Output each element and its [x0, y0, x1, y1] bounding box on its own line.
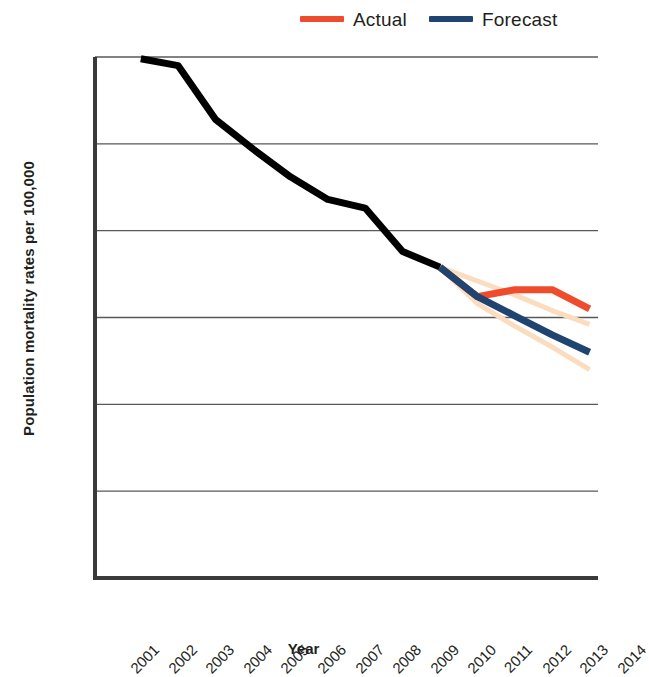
legend-label-actual: Actual: [353, 10, 407, 29]
legend-swatch-actual: [300, 16, 344, 22]
y-axis-title: Population mortality rates per 100,000: [20, 99, 37, 499]
series-line: [141, 59, 440, 267]
chart-legend: Actual Forecast: [300, 6, 600, 32]
series-line: [440, 267, 590, 352]
legend-label-forecast: Forecast: [482, 10, 558, 29]
plot-area: 350400450500550600650 200120022003200420…: [95, 57, 598, 578]
gridlines: [95, 57, 598, 491]
legend-item-actual: Actual: [300, 10, 407, 29]
plot-canvas: [95, 57, 598, 578]
legend-item-forecast: Forecast: [429, 10, 558, 29]
legend-swatch-forecast: [429, 16, 473, 22]
series-lines: [141, 59, 590, 352]
x-tick-label: 2014: [613, 641, 649, 677]
